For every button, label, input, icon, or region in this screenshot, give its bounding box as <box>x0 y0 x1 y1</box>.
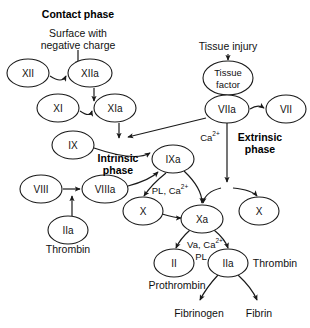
node-IIa-right: IIa <box>208 249 248 277</box>
edge-viia-to-vii <box>250 106 264 109</box>
edge-x-left-to-xa <box>162 214 181 218</box>
heading-extrinsic-phase-line2: phase <box>245 143 276 155</box>
label-tissue-injury: Tissue injury <box>199 40 258 52</box>
diagram-canvas: XII XIIa XI XIa IX IXa <box>0 0 310 328</box>
node-label-XIIa: XIIa <box>81 68 99 79</box>
node-tissue-factor: Tissue factor <box>203 61 253 95</box>
node-label-VIIIa: VIIIa <box>95 184 116 195</box>
heading-intrinsic-phase-line2: phase <box>103 164 134 176</box>
node-label-VIIa: VIIa <box>218 104 236 115</box>
heading-contact-phase: Contact phase <box>42 8 115 20</box>
node-IX: IX <box>52 131 94 159</box>
node-label-X-left: X <box>140 206 147 217</box>
node-label-X-right: X <box>256 206 263 217</box>
node-Xa: Xa <box>181 205 223 233</box>
node-X-right: X <box>239 197 279 225</box>
label-fibrin: Fibrin <box>246 307 272 319</box>
edge-common-to-x-right <box>233 188 257 196</box>
node-label-XI: XI <box>53 103 62 114</box>
label-thrombin-right: Thrombin <box>253 257 298 269</box>
node-VIIa: VIIa <box>205 95 249 123</box>
node-label-XII: XII <box>22 68 34 79</box>
coagulation-cascade-diagram: XII XIIa XI XIa IX IXa <box>0 0 310 328</box>
edge-viia-to-ix <box>128 118 206 137</box>
node-label-IX: IX <box>68 140 78 151</box>
label-surface-line2: negative charge <box>41 39 116 51</box>
edge-common-to-xa <box>203 188 221 203</box>
node-label-IXa: IXa <box>165 154 180 165</box>
edge-xii-to-xiia <box>50 76 66 80</box>
node-IXa: IXa <box>152 145 194 173</box>
node-II: II <box>154 249 194 277</box>
label-va-calcium: Va, Ca2+ <box>187 237 223 250</box>
node-label-VIII: VIII <box>33 184 48 195</box>
heading-intrinsic-phase-line1: Intrinsic <box>98 152 139 164</box>
edge-xi-to-xia <box>80 111 92 115</box>
node-label-tissue-factor-line1: Tissue <box>214 67 242 78</box>
node-label-tissue-factor-line2: factor <box>216 79 240 90</box>
node-VII: VII <box>266 95 306 123</box>
label-pl: PL <box>195 251 207 262</box>
node-label-IIa-left: IIa <box>62 225 74 236</box>
edge-iia-to-fibrin <box>238 275 257 300</box>
node-label-II: II <box>171 258 177 269</box>
node-XIa: XIa <box>94 94 136 122</box>
node-label-XIa: XIa <box>107 103 122 114</box>
node-XI: XI <box>37 94 79 122</box>
node-label-IIa-right: IIa <box>222 258 234 269</box>
node-XIIa: XIIa <box>68 59 112 87</box>
node-label-VII: VII <box>280 104 292 115</box>
label-calcium: Ca2+ <box>200 130 220 143</box>
node-X-left: X <box>123 197 163 225</box>
node-VIIIa: VIIIa <box>82 175 128 203</box>
node-IIa-left: IIa <box>48 216 88 244</box>
node-VIII: VIII <box>20 175 62 203</box>
label-pl-calcium: PL, Ca2+ <box>152 183 189 196</box>
label-thrombin-left: Thrombin <box>46 243 91 255</box>
node-XII: XII <box>7 59 49 87</box>
label-prothrombin: Prothrombin <box>148 279 205 291</box>
label-surface-line1: Surface with <box>49 27 107 39</box>
label-fibrinogen: Fibrinogen <box>174 307 224 319</box>
node-label-Xa: Xa <box>196 214 209 225</box>
heading-extrinsic-phase-line1: Extrinsic <box>238 131 283 143</box>
